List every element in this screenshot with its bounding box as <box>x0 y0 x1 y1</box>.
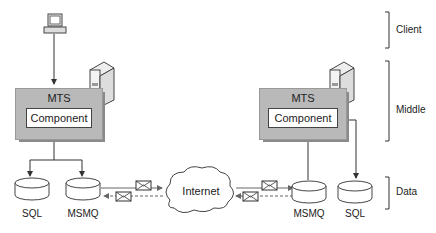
left-msmq-label: MSMQ <box>62 208 104 219</box>
tier-bracket-client <box>385 12 389 48</box>
internet-label: Internet <box>176 185 226 197</box>
right-mts-label: MTS <box>260 92 346 104</box>
left-component-box: Component <box>26 108 92 128</box>
tier-bracket-data <box>385 177 389 209</box>
envelope-icon <box>243 192 258 201</box>
envelope-icon <box>136 181 151 190</box>
left-mts-container: MTS Component <box>15 88 103 140</box>
left-mts-label: MTS <box>16 92 102 104</box>
right-sql-db-icon <box>338 181 372 203</box>
tier-label-data: Data <box>396 186 417 197</box>
tier-bracket-middle <box>385 61 389 141</box>
left-msmq-db-icon <box>66 178 100 200</box>
left-sql-label: SQL <box>15 208 49 219</box>
right-component-box: Component <box>268 108 338 128</box>
tier-label-middle: Middle <box>396 104 425 115</box>
envelope-icon <box>116 192 131 201</box>
right-mts-container: MTS Component <box>259 88 347 140</box>
right-msmq-db-icon <box>292 181 326 203</box>
right-msmq-label: MSMQ <box>288 208 330 219</box>
right-sql-label: SQL <box>338 208 372 219</box>
envelope-icon <box>262 181 277 190</box>
client-computer-icon <box>44 14 66 33</box>
tier-label-client: Client <box>396 24 422 35</box>
left-sql-db-icon <box>15 178 49 200</box>
